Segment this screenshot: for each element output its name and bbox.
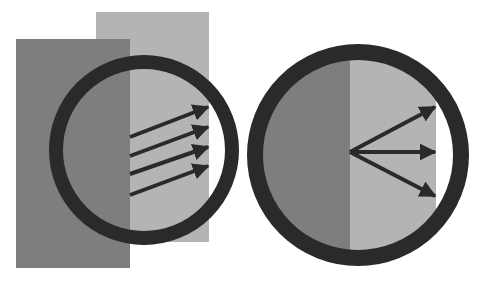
diagram-canvas [0, 0, 484, 281]
